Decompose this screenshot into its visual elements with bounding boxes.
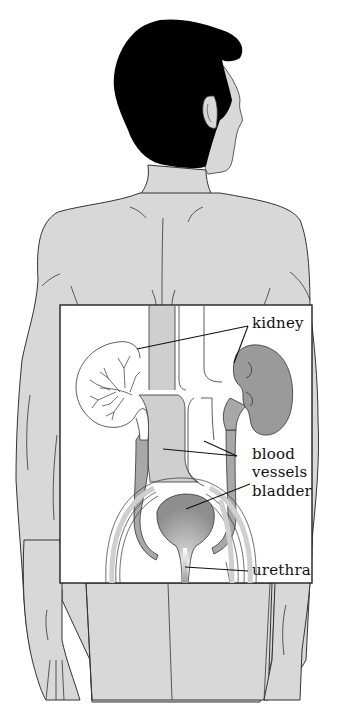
neck	[140, 165, 212, 195]
label-kidney: kidney	[252, 315, 304, 332]
diagram-illustration	[0, 0, 340, 715]
lower-back	[86, 583, 272, 700]
urethra	[182, 548, 188, 583]
label-bladder: bladder	[252, 483, 312, 500]
inset-frame	[60, 305, 312, 583]
label-urethra: urethra	[252, 562, 311, 579]
urinary-system-diagram: kidney blood vessels bladder urethra	[0, 0, 340, 715]
head	[114, 19, 243, 174]
label-vessels: vessels	[252, 464, 308, 481]
label-blood: blood	[252, 446, 295, 463]
